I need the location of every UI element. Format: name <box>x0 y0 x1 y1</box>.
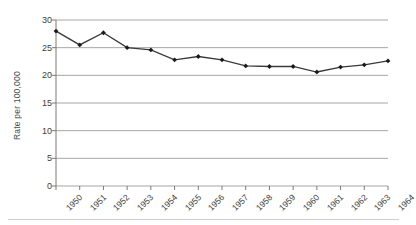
footer-divider <box>8 219 399 220</box>
gridlines <box>56 20 388 186</box>
data-point <box>291 64 296 69</box>
data-point <box>196 54 201 59</box>
data-point <box>243 64 248 69</box>
data-point <box>148 47 153 52</box>
data-point <box>338 65 343 70</box>
data-point <box>386 59 391 64</box>
x-axis-ticks <box>56 186 388 190</box>
data-series-line <box>56 31 388 72</box>
y-axis-ticks <box>52 20 56 186</box>
data-point <box>362 62 367 67</box>
data-point <box>314 70 319 75</box>
data-point <box>267 64 272 69</box>
data-point <box>220 57 225 62</box>
data-point <box>172 57 177 62</box>
data-point-markers <box>54 29 391 75</box>
